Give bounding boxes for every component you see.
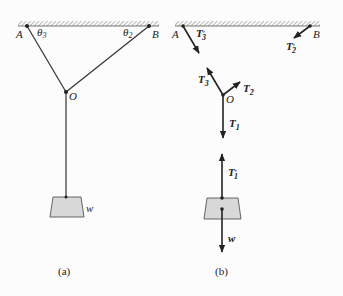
label-weight-a: w [86, 202, 94, 214]
label-T3: T3 [198, 73, 209, 88]
arrow-T2-prime [294, 26, 310, 38]
figure-b: A B O T′3 T′2 T3 T2 T1 T′1 w (b) [171, 21, 320, 278]
caption-b: (b) [215, 265, 228, 278]
label-B-b: B [313, 28, 320, 40]
label-T1-prime: T′1 [228, 166, 238, 181]
label-T1: T1 [229, 117, 240, 132]
point-B [147, 24, 151, 28]
figure-a: A B O θ3 θ2 w (a) [15, 21, 159, 278]
label-theta2: θ2 [123, 26, 132, 40]
ceiling-b [175, 21, 320, 26]
rope-AO [27, 26, 66, 92]
label-T3-prime: T′3 [196, 27, 206, 42]
label-O: O [69, 90, 77, 102]
label-A-b: A [171, 28, 179, 40]
point-O [64, 90, 68, 94]
weight-block-a [50, 197, 84, 217]
label-w-b: w [228, 232, 236, 244]
label-T2: T2 [243, 82, 254, 97]
arrow-T3 [207, 68, 223, 95]
statics-diagram: A B O θ3 θ2 w (a) A B O T′3 T′2 T3 T2 T1… [0, 0, 343, 296]
point-A [25, 24, 29, 28]
label-T2-prime: T′2 [286, 40, 296, 55]
label-B: B [152, 28, 159, 40]
label-A: A [15, 28, 23, 40]
caption-a: (a) [58, 265, 71, 278]
rope-BO [66, 26, 149, 92]
label-O-b: O [226, 93, 234, 105]
label-theta3: θ3 [37, 26, 46, 40]
